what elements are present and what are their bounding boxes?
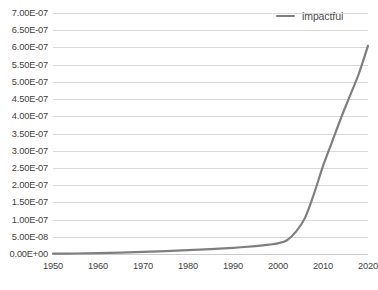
x-tick-label-5: 2000 <box>268 261 288 271</box>
x-tick-label-6: 2010 <box>313 261 333 271</box>
y-tick-label-13: 6.50E-07 <box>12 25 48 35</box>
y-tick-label-12: 6.00E-07 <box>12 42 48 52</box>
y-tick-label-3: 1.50E-07 <box>12 197 48 207</box>
y-tick-label-2: 1.00E-07 <box>12 215 48 225</box>
y-tick-label-7: 3.50E-07 <box>12 129 48 139</box>
y-axis: 0.00E+005.00E-081.00E-071.50E-072.00E-07… <box>0 0 48 290</box>
series-svg <box>53 13 368 254</box>
series-line-impactful <box>53 46 368 254</box>
y-tick-label-5: 2.50E-07 <box>12 163 48 173</box>
y-tick-label-4: 2.00E-07 <box>12 180 48 190</box>
y-tick-label-0: 0.00E+00 <box>10 249 48 259</box>
x-tick-label-1: 1960 <box>88 261 108 271</box>
y-tick-label-11: 5.50E-07 <box>12 60 48 70</box>
x-tick-label-0: 1950 <box>43 261 63 271</box>
plot-area <box>53 13 368 254</box>
x-tick-label-2: 1970 <box>133 261 153 271</box>
y-tick-label-9: 4.50E-07 <box>12 94 48 104</box>
y-tick-label-14: 7.00E-07 <box>12 8 48 18</box>
y-tick-label-8: 4.00E-07 <box>12 111 48 121</box>
y-tick-label-1: 5.00E-08 <box>12 232 48 242</box>
x-tick-label-3: 1980 <box>178 261 198 271</box>
y-tick-label-10: 5.00E-07 <box>12 77 48 87</box>
x-tick-label-4: 1990 <box>223 261 243 271</box>
x-axis: 19501960197019801990200020102020 <box>0 261 372 277</box>
y-tick-label-6: 3.00E-07 <box>12 146 48 156</box>
x-tick-label-7: 2020 <box>358 261 378 271</box>
